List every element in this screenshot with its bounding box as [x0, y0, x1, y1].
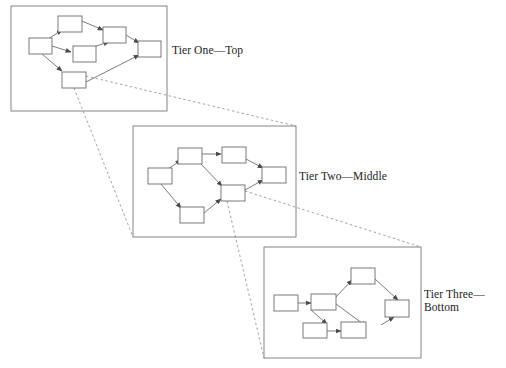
graph-node — [73, 46, 96, 62]
tier-three-nodes — [274, 268, 409, 338]
graph-node — [178, 148, 202, 164]
tier-two-group — [133, 126, 296, 237]
graph-node — [311, 294, 336, 310]
graph-node — [62, 72, 86, 88]
graph-node — [262, 167, 286, 183]
graph-node — [274, 295, 298, 311]
tier-two-label: Tier Two—Middle — [299, 170, 387, 183]
graph-node — [385, 300, 409, 317]
graph-node — [303, 323, 327, 338]
tier-three-label: Tier Three—Bottom — [424, 288, 494, 314]
tier-one-label: Tier One—Top — [172, 44, 243, 57]
tier-three-group — [264, 247, 421, 358]
graph-node — [351, 268, 375, 284]
graph-node — [180, 207, 204, 223]
graph-node — [221, 185, 245, 201]
graph-node — [58, 16, 82, 32]
graph-node — [222, 147, 246, 163]
graph-node — [29, 38, 52, 54]
tier-two-nodes — [148, 147, 286, 223]
graph-node — [103, 27, 126, 43]
graph-node — [341, 322, 366, 338]
graph-node — [148, 168, 172, 184]
graph-node — [138, 41, 161, 57]
diagram-canvas: Tier One—Top Tier Two—Middle Tier Three—… — [0, 0, 506, 368]
tier-two-edges — [161, 154, 263, 213]
tier-one-group — [11, 6, 167, 111]
